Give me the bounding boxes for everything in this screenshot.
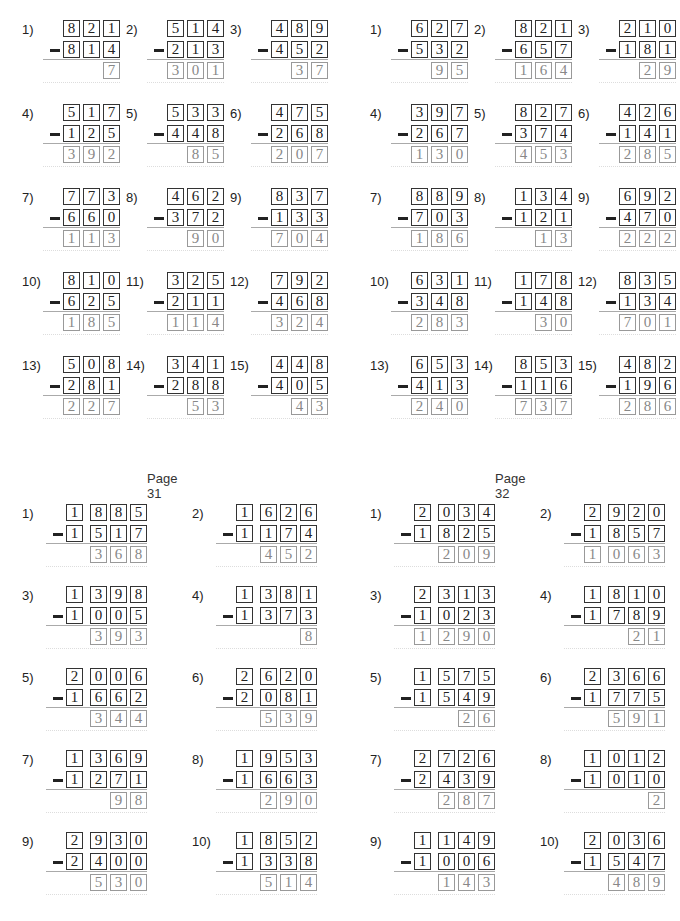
answer-digit-box[interactable]: 9 [280, 792, 297, 809]
answer-digit-box[interactable]: 8 [639, 398, 656, 415]
answer-digit-box[interactable]: 1 [63, 314, 80, 331]
answer-digit-box[interactable]: 7 [478, 792, 495, 809]
answer-digit-box[interactable]: 1 [167, 314, 184, 331]
answer-digit-box[interactable]: 7 [555, 398, 572, 415]
answer-digit-box[interactable]: 4 [431, 398, 448, 415]
answer-digit-box[interactable]: 3 [291, 62, 308, 79]
answer-digit-box[interactable]: 9 [648, 874, 665, 891]
answer-digit-box[interactable]: 3 [451, 314, 468, 331]
answer-digit-box[interactable]: 1 [280, 874, 297, 891]
answer-digit-box[interactable]: 0 [291, 230, 308, 247]
answer-digit-box[interactable]: 7 [311, 146, 328, 163]
answer-digit-box[interactable]: 0 [639, 314, 656, 331]
answer-digit-box[interactable]: 0 [300, 792, 317, 809]
answer-digit-box[interactable]: 0 [130, 874, 147, 891]
answer-digit-box[interactable]: 0 [451, 146, 468, 163]
answer-digit-box[interactable]: 9 [187, 230, 204, 247]
answer-digit-box[interactable]: 3 [90, 628, 107, 645]
answer-digit-box[interactable]: 2 [619, 230, 636, 247]
answer-digit-box[interactable]: 1 [411, 230, 428, 247]
answer-digit-box[interactable]: 6 [659, 398, 676, 415]
answer-digit-box[interactable]: 2 [411, 398, 428, 415]
answer-digit-box[interactable]: 1 [535, 230, 552, 247]
answer-digit-box[interactable]: 4 [555, 62, 572, 79]
answer-digit-box[interactable]: 5 [207, 146, 224, 163]
answer-digit-box[interactable]: 4 [207, 314, 224, 331]
answer-digit-box[interactable]: 0 [478, 628, 495, 645]
answer-digit-box[interactable]: 8 [639, 146, 656, 163]
answer-digit-box[interactable]: 1 [515, 62, 532, 79]
answer-digit-box[interactable]: 1 [63, 230, 80, 247]
answer-digit-box[interactable]: 5 [103, 314, 120, 331]
answer-digit-box[interactable]: 1 [659, 314, 676, 331]
answer-digit-box[interactable]: 0 [291, 146, 308, 163]
answer-digit-box[interactable]: 2 [438, 546, 455, 563]
answer-digit-box[interactable]: 7 [619, 314, 636, 331]
answer-digit-box[interactable]: 7 [271, 230, 288, 247]
answer-digit-box[interactable]: 2 [659, 230, 676, 247]
answer-digit-box[interactable]: 9 [300, 710, 317, 727]
answer-digit-box[interactable]: 3 [555, 230, 572, 247]
answer-digit-box[interactable]: 1 [584, 546, 601, 563]
answer-digit-box[interactable]: 2 [271, 146, 288, 163]
answer-digit-box[interactable]: 3 [431, 146, 448, 163]
answer-digit-box[interactable]: 3 [535, 398, 552, 415]
answer-digit-box[interactable]: 2 [300, 546, 317, 563]
answer-digit-box[interactable]: 2 [438, 792, 455, 809]
answer-digit-box[interactable]: 9 [458, 628, 475, 645]
answer-digit-box[interactable]: 3 [280, 710, 297, 727]
answer-digit-box[interactable]: 2 [411, 314, 428, 331]
answer-digit-box[interactable]: 6 [535, 62, 552, 79]
answer-digit-box[interactable]: 9 [478, 546, 495, 563]
answer-digit-box[interactable]: 3 [110, 874, 127, 891]
answer-digit-box[interactable]: 6 [451, 230, 468, 247]
answer-digit-box[interactable]: 7 [515, 398, 532, 415]
answer-digit-box[interactable]: 7 [103, 62, 120, 79]
answer-digit-box[interactable]: 2 [103, 146, 120, 163]
answer-digit-box[interactable]: 8 [187, 146, 204, 163]
answer-digit-box[interactable]: 3 [130, 628, 147, 645]
answer-digit-box[interactable]: 2 [291, 314, 308, 331]
answer-digit-box[interactable]: 0 [187, 62, 204, 79]
answer-digit-box[interactable]: 5 [280, 546, 297, 563]
answer-digit-box[interactable]: 7 [311, 62, 328, 79]
answer-digit-box[interactable]: 3 [555, 146, 572, 163]
answer-digit-box[interactable]: 0 [458, 546, 475, 563]
answer-digit-box[interactable]: 2 [619, 398, 636, 415]
answer-digit-box[interactable]: 9 [110, 792, 127, 809]
answer-digit-box[interactable]: 3 [207, 398, 224, 415]
answer-digit-box[interactable]: 9 [431, 62, 448, 79]
answer-digit-box[interactable]: 8 [431, 314, 448, 331]
answer-digit-box[interactable]: 4 [311, 230, 328, 247]
answer-digit-box[interactable]: 1 [648, 710, 665, 727]
answer-digit-box[interactable]: 5 [90, 874, 107, 891]
answer-digit-box[interactable]: 9 [628, 710, 645, 727]
answer-digit-box[interactable]: 0 [608, 546, 625, 563]
answer-digit-box[interactable]: 4 [458, 874, 475, 891]
answer-digit-box[interactable]: 3 [648, 546, 665, 563]
answer-digit-box[interactable]: 4 [311, 314, 328, 331]
answer-digit-box[interactable]: 9 [110, 628, 127, 645]
answer-digit-box[interactable]: 5 [659, 146, 676, 163]
answer-digit-box[interactable]: 3 [167, 62, 184, 79]
answer-digit-box[interactable]: 4 [130, 710, 147, 727]
answer-digit-box[interactable]: 8 [458, 792, 475, 809]
answer-digit-box[interactable]: 4 [291, 398, 308, 415]
answer-digit-box[interactable]: 8 [83, 314, 100, 331]
answer-digit-box[interactable]: 4 [260, 546, 277, 563]
answer-digit-box[interactable]: 2 [628, 628, 645, 645]
answer-digit-box[interactable]: 3 [478, 874, 495, 891]
answer-digit-box[interactable]: 8 [431, 230, 448, 247]
answer-digit-box[interactable]: 1 [207, 62, 224, 79]
answer-digit-box[interactable]: 6 [628, 546, 645, 563]
answer-digit-box[interactable]: 3 [63, 146, 80, 163]
answer-digit-box[interactable]: 2 [648, 792, 665, 809]
answer-digit-box[interactable]: 4 [608, 874, 625, 891]
answer-digit-box[interactable]: 0 [451, 398, 468, 415]
answer-digit-box[interactable]: 3 [90, 546, 107, 563]
answer-digit-box[interactable]: 6 [110, 546, 127, 563]
answer-digit-box[interactable]: 5 [260, 874, 277, 891]
answer-digit-box[interactable]: 5 [608, 710, 625, 727]
answer-digit-box[interactable]: 2 [83, 398, 100, 415]
answer-digit-box[interactable]: 3 [535, 314, 552, 331]
